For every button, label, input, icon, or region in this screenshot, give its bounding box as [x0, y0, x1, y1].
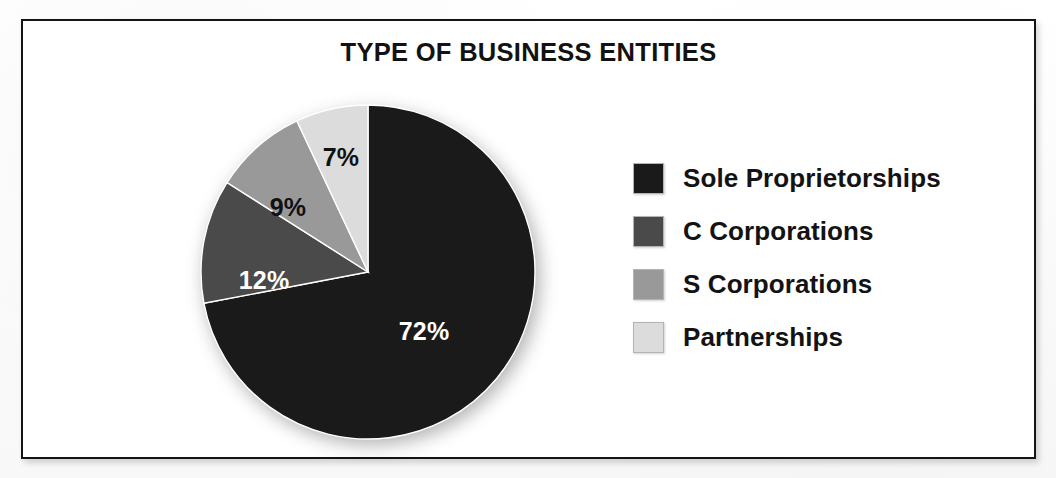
chart-screenshot: TYPE OF BUSINESS ENTITIES 72%12%9%7% Sol…	[0, 0, 1056, 478]
pie-slice-label-4: 7%	[323, 143, 360, 171]
pie-svg: 72%12%9%7%	[178, 83, 558, 461]
legend-label-3: S Corporations	[683, 269, 872, 300]
pie-chart: 72%12%9%7%	[178, 83, 558, 461]
chart-title: TYPE OF BUSINESS ENTITIES	[23, 38, 1034, 67]
legend-swatch-icon-4	[633, 322, 664, 353]
legend-label-2: C Corporations	[683, 216, 874, 247]
legend-item-2[interactable]: C Corporations	[633, 205, 1033, 258]
chart-frame: TYPE OF BUSINESS ENTITIES 72%12%9%7% Sol…	[21, 19, 1036, 459]
legend-swatch-icon-1	[633, 163, 664, 194]
legend-swatch-icon-3	[633, 269, 664, 300]
pie-slice-label-3: 9%	[270, 193, 307, 221]
chart-legend: Sole ProprietorshipsC CorporationsS Corp…	[633, 152, 1033, 364]
pie-slice-label-1: 72%	[399, 317, 450, 345]
legend-swatch-icon-2	[633, 216, 664, 247]
legend-item-1[interactable]: Sole Proprietorships	[633, 152, 1033, 205]
legend-label-1: Sole Proprietorships	[683, 163, 941, 194]
pie-slice-label-2: 12%	[239, 266, 290, 294]
legend-label-4: Partnerships	[683, 322, 843, 353]
legend-item-4[interactable]: Partnerships	[633, 311, 1033, 364]
legend-item-3[interactable]: S Corporations	[633, 258, 1033, 311]
